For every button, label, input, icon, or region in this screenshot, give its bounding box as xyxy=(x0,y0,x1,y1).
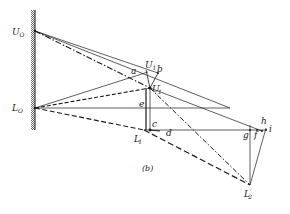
label-d: d xyxy=(166,128,172,138)
label-e: e xyxy=(139,99,144,109)
label-U1p: U′1 xyxy=(152,83,162,95)
ray-L0-to-U1p xyxy=(35,88,150,108)
label-L1p: L′1 xyxy=(133,133,142,145)
point-U0 xyxy=(34,30,36,32)
figure-caption: (b) xyxy=(142,164,153,173)
wall xyxy=(31,10,35,130)
ray-L1p-to-L2p xyxy=(144,130,250,185)
points xyxy=(34,30,267,132)
point-g xyxy=(249,129,251,131)
label-i: i xyxy=(269,124,272,134)
label-b: b xyxy=(157,64,163,74)
ray-U0-to-U1p xyxy=(35,31,150,88)
label-f: f xyxy=(253,130,259,140)
point-L0 xyxy=(34,107,36,109)
ray-diagram: UO LO a U1 b U′1 e c d L′1 g f h i L′2 (… xyxy=(0,0,290,214)
diagram-figure: UO LO a U1 b U′1 e c d L′1 g f h i L′2 (… xyxy=(0,0,290,214)
ray-L0-to-a xyxy=(35,72,148,108)
ray-U1p-to-h xyxy=(150,88,262,131)
label-L2p: L′2 xyxy=(243,188,252,200)
ray-U0-to-U1 xyxy=(35,31,158,73)
label-a: a xyxy=(131,66,136,76)
point-c xyxy=(149,129,152,132)
label-h: h xyxy=(261,116,267,126)
ray-U1p-to-L2p xyxy=(150,88,250,185)
label-c: c xyxy=(152,119,157,129)
ray-lines xyxy=(35,31,266,185)
label-g: g xyxy=(243,130,249,140)
label-L0: LO xyxy=(11,103,23,114)
label-U1: U1 xyxy=(145,60,156,71)
point-h xyxy=(261,130,263,132)
ray-L0-to-L1p xyxy=(35,108,144,130)
label-U0: UO xyxy=(12,27,25,38)
point-i xyxy=(265,129,267,131)
segment-U1-U1p xyxy=(146,70,150,88)
line-i-L2p xyxy=(250,128,266,185)
